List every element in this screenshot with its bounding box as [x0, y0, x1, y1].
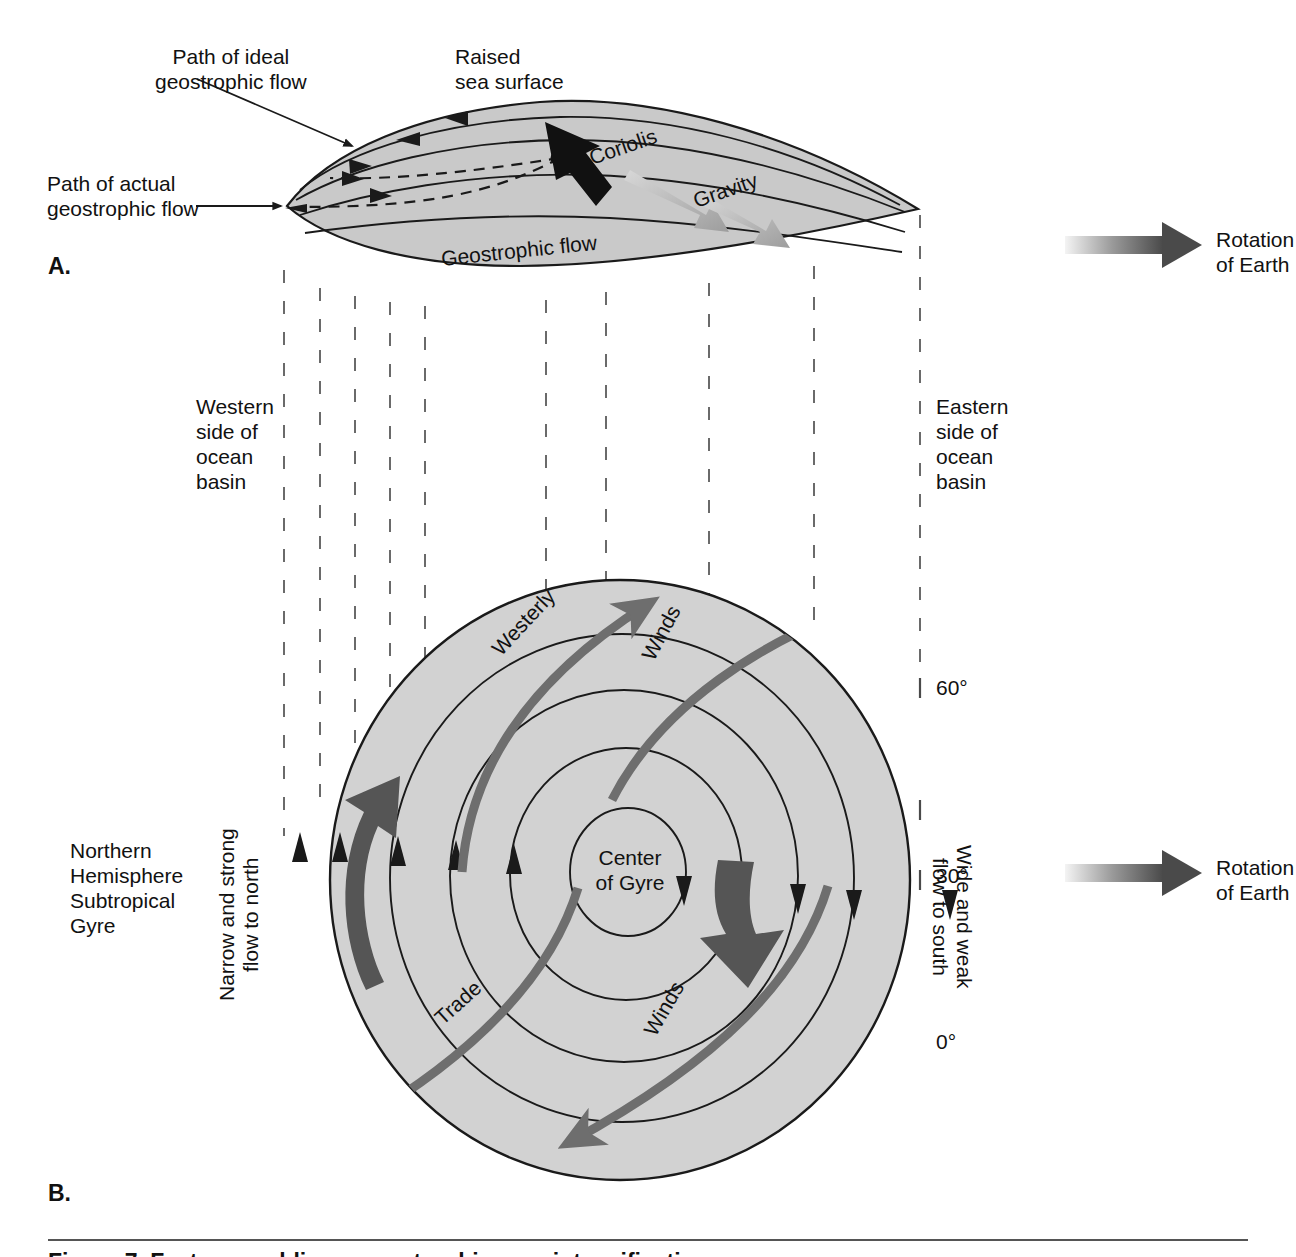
latitude-30-label: 30° — [936, 863, 968, 888]
ideal-path-label: Path of ideal geostrophic flow — [155, 44, 307, 94]
raised-sea-surface-label: Raised sea surface — [455, 44, 564, 94]
western-side-label: Western side of ocean basin — [196, 394, 274, 494]
latitude-0-label: 0° — [936, 1029, 956, 1054]
wide-weak-flow-label: Wide and weak flow to south — [928, 792, 976, 1042]
rotation-legend-bottom-arrow — [1065, 850, 1202, 896]
rotation-legend-top-arrow — [1065, 222, 1202, 268]
gyre-title-label: Northern Hemisphere Subtropical Gyre — [70, 838, 183, 938]
oceanography-figure: Path of ideal geostrophic flow Path of a… — [0, 0, 1296, 1257]
latitude-60-label: 60° — [936, 675, 968, 700]
rotation-legend-top-label: Rotation of Earth — [1216, 227, 1294, 277]
actual-path-label: Path of actual geostrophic flow — [47, 171, 199, 221]
panel-b-letter: B. — [48, 1180, 71, 1207]
figure-caption: Figure 7 Factors enabling a geostrophic … — [48, 1249, 1248, 1257]
caption-divider — [48, 1239, 1248, 1241]
narrow-strong-flow-label: Narrow and strong flow to north — [215, 790, 263, 1040]
center-of-gyre-label: Center of Gyre — [576, 845, 684, 895]
eastern-side-label: Eastern side of ocean basin — [936, 394, 1008, 494]
panel-a-sea-surface — [285, 101, 918, 266]
rotation-legend-bottom-label: Rotation of Earth — [1216, 855, 1294, 905]
panel-a-letter: A. — [48, 253, 71, 280]
